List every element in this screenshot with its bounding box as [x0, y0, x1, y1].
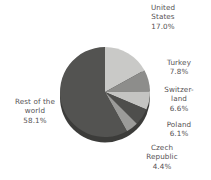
pie-slice-group	[60, 47, 150, 137]
slice-label-czech-republic: Czech Republic 4.4%	[133, 143, 191, 171]
slice-label-turkey: Turkey 7.8%	[152, 58, 206, 77]
slice-label-poland: Poland 6.1%	[152, 120, 206, 139]
slice-label-united-states: United States 17.0%	[136, 3, 190, 31]
slice-label-switzerland: Switzer- land 6.6%	[152, 85, 206, 113]
pie-chart: United States 17.0% Turkey 7.8% Switzer-…	[0, 0, 211, 180]
slice-label-rest-of-the-world: Rest of the world 58.1%	[4, 97, 66, 125]
